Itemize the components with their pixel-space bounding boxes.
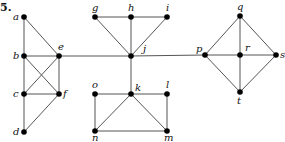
edge-t-s (240, 55, 276, 92)
vertex-label-a: a (13, 11, 19, 22)
vertex-label-d: d (13, 126, 19, 137)
vertex-label-t: t (237, 95, 242, 106)
edge-i-j (131, 17, 167, 56)
vertex-a (21, 14, 27, 20)
graph-diagram: 5. abcdefghijklmnopqrst (0, 0, 285, 142)
vertex-label-i: i (166, 2, 169, 13)
vertex-h (128, 14, 134, 20)
vertex-label-k: k (135, 82, 141, 93)
vertex-k (128, 91, 134, 97)
vertex-label-f: f (62, 88, 69, 99)
vertex-f (56, 91, 62, 97)
vertex-o (92, 91, 98, 97)
vertex-e (56, 53, 62, 59)
graph-canvas: abcdefghijklmnopqrst (0, 0, 285, 142)
vertex-g (92, 14, 98, 20)
vertex-s (273, 52, 279, 58)
edge-p-t (205, 55, 240, 92)
vertex-label-h: h (128, 2, 134, 13)
edge-k-m (131, 94, 167, 131)
edge-a-e (24, 17, 59, 56)
vertex-p (202, 52, 208, 58)
edges-layer (24, 16, 276, 132)
vertex-label-r: r (245, 42, 251, 53)
vertex-label-g: g (92, 2, 98, 13)
vertex-t (237, 89, 243, 95)
vertex-label-q: q (237, 1, 243, 12)
vertex-j (128, 53, 134, 59)
edge-g-j (95, 17, 131, 56)
labels-layer: abcdefghijklmnopqrst (13, 1, 285, 142)
vertex-c (21, 91, 27, 97)
edge-j-p (131, 55, 205, 56)
vertex-label-m: m (164, 132, 173, 142)
vertex-b (21, 53, 27, 59)
vertex-label-o: o (92, 79, 98, 90)
vertex-label-s: s (280, 49, 285, 60)
vertex-q (237, 13, 243, 19)
vertex-d (21, 129, 27, 135)
edge-d-f (24, 94, 59, 132)
vertex-label-b: b (13, 50, 19, 61)
vertex-label-c: c (13, 88, 19, 99)
edge-p-q (205, 16, 240, 55)
vertex-label-l: l (166, 79, 169, 90)
vertex-l (164, 91, 170, 97)
vertex-label-n: n (92, 132, 98, 142)
edge-n-k (95, 94, 131, 131)
vertex-r (237, 52, 243, 58)
vertex-i (164, 14, 170, 20)
vertex-label-e: e (58, 41, 64, 52)
vertex-label-p: p (196, 43, 203, 54)
